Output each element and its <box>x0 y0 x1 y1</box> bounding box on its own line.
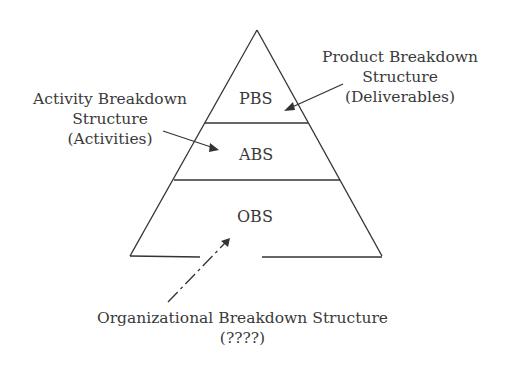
activity-annotation-line3: (Activities) <box>22 129 198 149</box>
product-arrow-head <box>284 102 295 111</box>
organizational-annotation: Organizational Breakdown Structure (????… <box>80 308 405 348</box>
level-abs: ABS <box>239 145 273 164</box>
product-annotation-line3: (Deliverables) <box>312 87 488 107</box>
organizational-arrow-line <box>168 242 226 302</box>
organizational-annotation-line1: Organizational Breakdown Structure <box>80 308 405 328</box>
activity-arrow-head <box>209 143 219 152</box>
level-pbs: PBS <box>239 89 272 108</box>
product-annotation: Product Breakdown Structure (Deliverable… <box>312 47 488 107</box>
level-obs: OBS <box>237 207 273 226</box>
pyramid-base-left <box>130 256 200 257</box>
activity-annotation-line2: Structure <box>22 109 198 129</box>
product-annotation-line1: Product Breakdown <box>312 47 488 67</box>
product-annotation-line2: Structure <box>312 67 488 87</box>
activity-annotation-line1: Activity Breakdown <box>22 89 198 109</box>
activity-annotation: Activity Breakdown Structure (Activities… <box>22 89 198 149</box>
organizational-annotation-line2: (????) <box>80 328 405 348</box>
